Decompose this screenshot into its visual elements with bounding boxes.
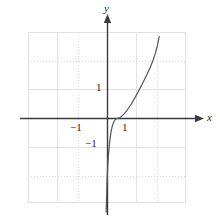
y-tick-label-negative-one: −1 — [85, 138, 97, 149]
y-axis-label: y — [104, 3, 109, 14]
graph-figure: y x −1 1 1 −1 — [0, 0, 220, 222]
axes — [20, 14, 204, 215]
curve-logarithm — [106, 37, 159, 213]
x-tick-label-negative-one: −1 — [70, 122, 82, 133]
x-axis-label: x — [207, 112, 212, 123]
x-axis-arrowhead — [195, 115, 204, 122]
x-tick-label-positive-one: 1 — [122, 122, 128, 133]
coordinate-plane — [0, 0, 220, 222]
curve-path — [106, 37, 159, 213]
y-axis-arrowhead — [104, 14, 111, 23]
y-tick-label-positive-one: 1 — [96, 82, 102, 93]
